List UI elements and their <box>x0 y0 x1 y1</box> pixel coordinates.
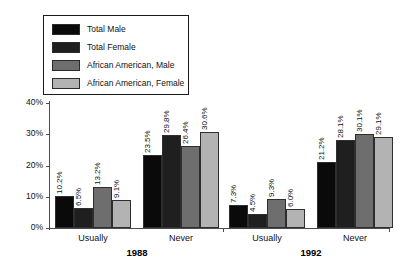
legend-label-african-american-female: African American, Female <box>87 78 184 88</box>
legend-swatch-total-female <box>52 42 80 53</box>
legend-label-total-male: Total Male <box>87 24 126 34</box>
bar <box>248 214 267 228</box>
bar-group: 21.2%28.1%30.1%29.1% <box>317 103 393 228</box>
bar-value-label: 29.8% <box>163 110 171 133</box>
bar-value-label: 28.1% <box>337 116 345 139</box>
bar <box>286 209 305 228</box>
bar <box>374 137 393 228</box>
legend-item-total-male: Total Male <box>44 20 188 38</box>
legend-swatch-total-male <box>52 24 80 35</box>
bar-value-label: 4.5% <box>249 194 257 212</box>
bar-value-label: 29.1% <box>375 112 383 135</box>
y-axis-tick-label: 0% <box>31 223 43 232</box>
bar <box>112 200 131 228</box>
bar <box>336 140 355 228</box>
legend-item-total-female: Total Female <box>44 38 188 56</box>
bar-value-label: 26.4% <box>182 121 190 144</box>
legend-label-total-female: Total Female <box>87 42 136 52</box>
x-axis-group-tick <box>389 228 390 232</box>
legend-swatch-african-american-female <box>52 78 80 89</box>
bar-group: 23.5%29.8%26.4%30.6% <box>143 103 219 228</box>
bar-value-label: 21.2% <box>318 137 326 160</box>
legend-swatch-african-american-male <box>52 60 80 71</box>
bar <box>200 132 219 228</box>
bar <box>317 162 336 228</box>
legend-label-african-american-male: African American, Male <box>87 60 174 70</box>
legend-item-african-american-male: African American, Male <box>44 56 188 74</box>
y-axis-tick-label: 10% <box>26 192 43 201</box>
bar-chart-figure: Total Male Total Female African American… <box>0 0 404 271</box>
bar <box>229 205 248 228</box>
x-axis-category-label: Never <box>141 233 221 243</box>
x-axis-group-tick <box>223 228 224 232</box>
plot-area: 10.2%6.5%13.2%9.1%23.5%29.8%26.4%30.6%7.… <box>49 103 390 228</box>
bar-group: 7.3%4.5%9.3%6.0% <box>229 103 305 228</box>
bar-value-label: 9.3% <box>268 179 276 197</box>
x-axis-category-label: Usually <box>227 233 307 243</box>
bar-value-label: 23.5% <box>144 130 152 153</box>
chart-legend: Total Male Total Female African American… <box>43 15 189 95</box>
bar-value-label: 13.2% <box>94 162 102 185</box>
x-axis-category-label: Usually <box>53 233 133 243</box>
bar <box>93 187 112 228</box>
y-axis-tick-mark <box>46 228 50 229</box>
bar <box>55 196 74 228</box>
bar <box>74 208 93 228</box>
x-axis-period-label: 1988 <box>97 247 177 258</box>
bar <box>181 146 200 229</box>
bar <box>267 199 286 228</box>
x-axis-line <box>49 228 390 229</box>
bar-value-label: 9.1% <box>113 179 121 197</box>
legend-item-african-american-female: African American, Female <box>44 74 188 92</box>
bar <box>162 135 181 228</box>
bar-value-label: 7.3% <box>230 185 238 203</box>
bar <box>143 155 162 228</box>
x-axis-period-label: 1992 <box>271 247 351 258</box>
bar <box>355 134 374 228</box>
bar-value-label: 30.6% <box>201 108 209 131</box>
bar-group: 10.2%6.5%13.2%9.1% <box>55 103 131 228</box>
y-axis-tick-label: 40% <box>26 98 43 107</box>
y-axis-tick-label: 30% <box>26 129 43 138</box>
bar-value-label: 6.0% <box>287 189 295 207</box>
y-axis-tick-label: 20% <box>26 161 43 170</box>
bar-value-label: 6.5% <box>75 187 83 205</box>
bar-value-label: 30.1% <box>356 109 364 132</box>
bar-value-label: 10.2% <box>56 171 64 194</box>
x-axis-category-label: Never <box>315 233 395 243</box>
